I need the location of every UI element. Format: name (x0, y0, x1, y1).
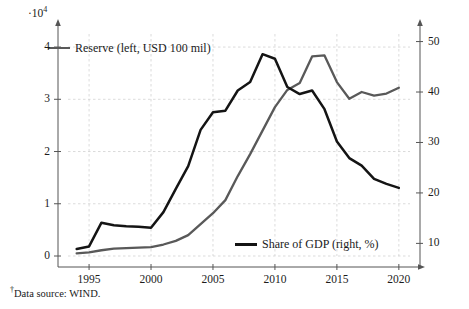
right-ytick-label-50: 50 (428, 36, 440, 48)
left-ytick-label-3: 3 (36, 94, 50, 106)
left-axis-multiplier: ·104 (28, 6, 47, 19)
legend-swatch-reserve-icon (48, 47, 70, 50)
legend-item-share-of-gdp: Share of GDP (right, %) (235, 238, 379, 250)
footnote-text: Data source: WIND. (14, 288, 100, 299)
right-ytick-label-40: 40 (428, 86, 440, 98)
axis-spines (54, 19, 425, 270)
multiplier-exponent: 4 (43, 5, 47, 14)
figure-container: ·104 Reserve (left, USD 100 mil) Share o… (0, 0, 469, 309)
series-line-1 (77, 55, 399, 253)
xtick-label-2010: 2010 (263, 274, 286, 286)
right-ytick-label-30: 30 (428, 137, 440, 149)
legend-item-reserve: Reserve (left, USD 100 mil) (48, 42, 211, 54)
xtick-label-2000: 2000 (140, 274, 163, 286)
multiplier-base: ·10 (28, 7, 43, 19)
legend-label-share-of-gdp: Share of GDP (right, %) (262, 238, 379, 250)
xtick-label-2020: 2020 (387, 274, 410, 286)
xtick-label-1995: 1995 (78, 274, 101, 286)
grid-lines (68, 34, 410, 256)
right-ytick-label-20: 20 (428, 187, 440, 199)
right-ytick-label-10: 10 (428, 238, 440, 250)
xtick-label-2015: 2015 (325, 274, 348, 286)
xtick-label-2005: 2005 (201, 274, 224, 286)
left-ytick-label-4: 4 (36, 41, 50, 53)
left-ytick-label-0: 0 (36, 250, 50, 262)
left-ytick-label-1: 1 (36, 198, 50, 210)
left-ytick-label-2: 2 (36, 146, 50, 158)
figure-footnote: †Data source: WIND. (10, 286, 100, 299)
legend-swatch-share-of-gdp-icon (235, 243, 257, 246)
legend-label-reserve: Reserve (left, USD 100 mil) (75, 42, 211, 54)
